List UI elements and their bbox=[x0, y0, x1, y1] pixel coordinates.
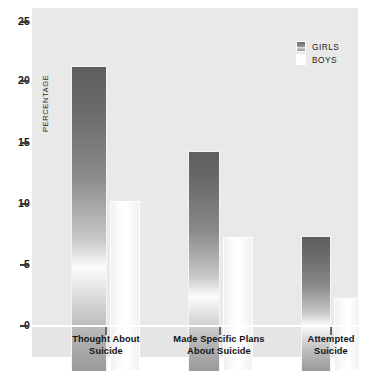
y-tick-mark-5 bbox=[20, 264, 29, 266]
category-label-1-line-2: Suicide bbox=[46, 346, 166, 358]
category-label-2: Made Specific Plans About Suicide bbox=[155, 334, 283, 357]
y-tick-mark-0 bbox=[20, 325, 29, 327]
category-label-3-line-2: Suicide bbox=[286, 346, 376, 358]
y-axis-title: PERCENTAGE bbox=[41, 75, 50, 132]
category-label-2-line-2: About Suicide bbox=[155, 346, 283, 358]
y-tick-mark-25 bbox=[20, 21, 29, 23]
category-label-3-line-1: Attempted bbox=[286, 334, 376, 346]
chart-legend: GIRLS BOYS bbox=[296, 40, 360, 66]
category-label-2-line-1: Made Specific Plans bbox=[155, 334, 283, 346]
category-label-1-line-1: Thought About bbox=[46, 334, 166, 346]
girls-swatch-icon bbox=[296, 41, 306, 52]
boys-swatch-icon bbox=[296, 54, 306, 65]
x-axis-line bbox=[32, 325, 358, 327]
y-tick-mark-15 bbox=[20, 142, 29, 144]
y-tick-mark-20 bbox=[20, 80, 29, 82]
category-label-1: Thought About Suicide bbox=[46, 334, 166, 357]
chart-figure: 25 20 15 10 5 0 PERCENTAGE Thought About… bbox=[0, 0, 383, 371]
legend-item-girls: GIRLS bbox=[296, 40, 360, 53]
category-label-3: Attempted Suicide bbox=[286, 334, 376, 357]
legend-item-boys: BOYS bbox=[296, 53, 360, 66]
y-tick-mark-10 bbox=[20, 203, 29, 205]
legend-label-boys: BOYS bbox=[312, 55, 337, 65]
legend-label-girls: GIRLS bbox=[312, 42, 339, 52]
